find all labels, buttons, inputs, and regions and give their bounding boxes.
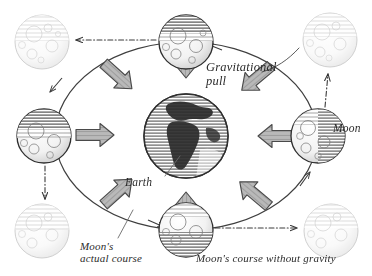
inertia-arrow-right-to-topright: [325, 74, 328, 107]
diagram-svg: [0, 0, 372, 276]
diagram-canvas: Gravitational pull Earth Moon Moon's act…: [0, 0, 372, 276]
moon-bottom: [159, 203, 213, 257]
label-moons-course-without-gravity: Moon's course without gravity: [196, 252, 336, 264]
label-gravitational-pull: Gravitational pull: [206, 60, 277, 88]
moon-left: [17, 109, 71, 163]
gravity-arrow-from-left: [76, 124, 114, 147]
moon-top: [159, 15, 213, 69]
moon-right: [291, 109, 345, 163]
leader-line-actual-course: [118, 210, 133, 238]
ghost-moon-top-right: [303, 13, 357, 67]
ghost-moon-bottom-left: [15, 204, 69, 258]
label-moons-actual-course: Moon's actual course: [80, 240, 142, 265]
label-moon: Moon: [333, 122, 361, 135]
orbit-direction-arrow-lower-right: [300, 172, 310, 186]
gravity-arrow-from-right: [258, 125, 296, 148]
orbit-direction-arrow-upper-left: [50, 78, 62, 92]
label-earth: Earth: [125, 176, 152, 189]
ghost-moon-bottom-right: [304, 204, 358, 258]
earth-globe: [144, 94, 228, 178]
gravity-arrow-from-upper-left: [96, 55, 140, 98]
ghost-moon-top-left: [15, 15, 69, 69]
